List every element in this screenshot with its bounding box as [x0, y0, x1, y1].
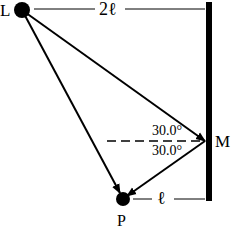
label-angle-incidence: 30.0° — [152, 124, 182, 138]
label-angle-reflection: 30.0° — [152, 144, 182, 158]
ray-L-to-P — [22, 10, 120, 193]
source-dot-L — [14, 2, 30, 18]
reflection-diagram: L 2ℓ M P ℓ 30.0° 30.0° — [0, 0, 248, 232]
ray-L-to-M — [22, 10, 205, 141]
mirror — [206, 2, 212, 201]
diagram-graphics — [0, 0, 248, 232]
label-l: ℓ — [157, 189, 166, 207]
observer-dot-P — [116, 192, 130, 206]
label-P: P — [117, 213, 126, 229]
label-2l: 2ℓ — [99, 0, 117, 18]
label-L: L — [0, 2, 10, 19]
label-M: M — [215, 133, 230, 150]
